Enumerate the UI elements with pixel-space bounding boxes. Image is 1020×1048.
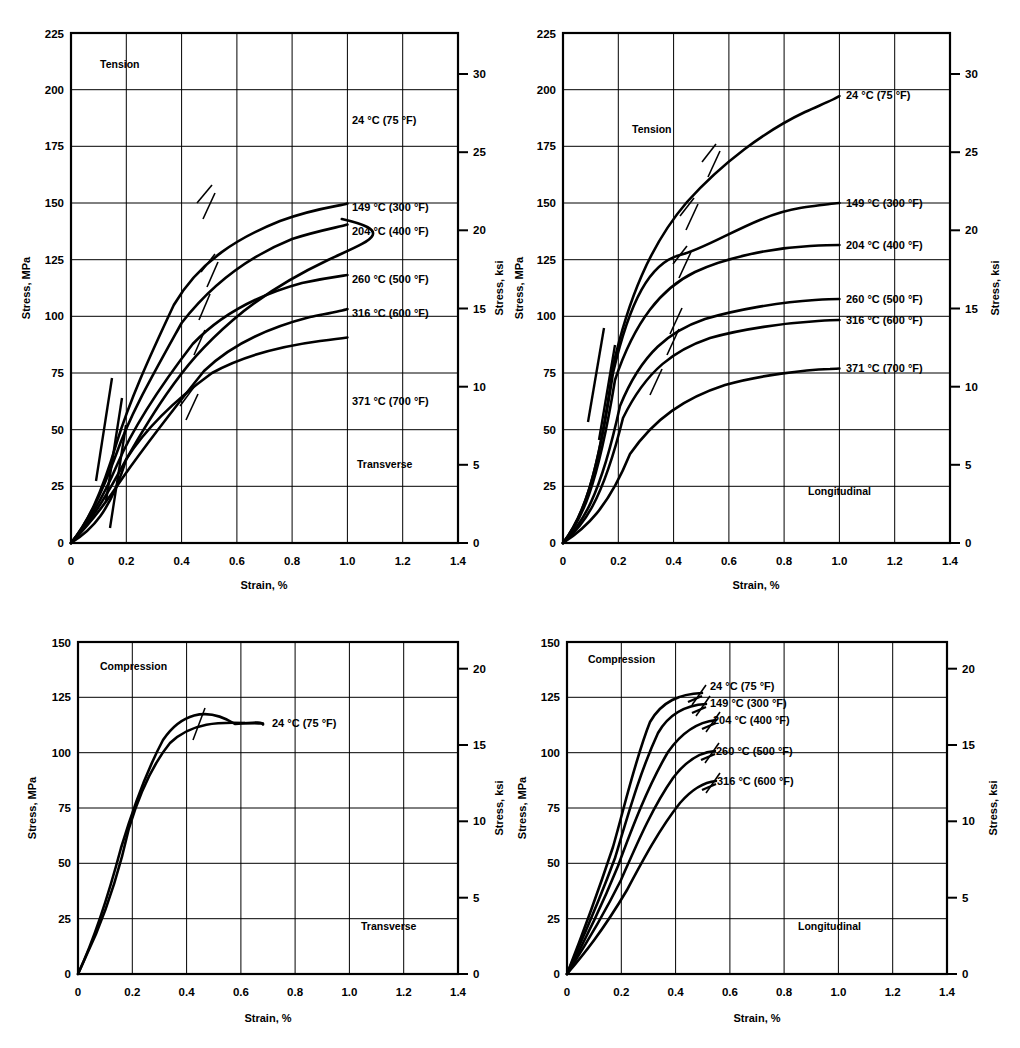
- svg-text:25: 25: [543, 480, 556, 492]
- curve-labels-bl: 24 °C (75 °F): [272, 717, 337, 729]
- mode-label-br: Compression: [588, 653, 655, 665]
- curve-label-24c: 24 °C (75 °F): [846, 89, 911, 101]
- svg-text:0.6: 0.6: [721, 555, 737, 567]
- svg-text:25: 25: [473, 146, 486, 158]
- svg-text:1.4: 1.4: [939, 986, 956, 998]
- svg-text:10: 10: [962, 815, 975, 827]
- svg-text:20: 20: [473, 224, 486, 236]
- svg-text:Strain, %: Strain, %: [732, 579, 779, 591]
- chart-compression-longitudinal: 0 25 50 75 100 125 150 Stress, MPa 0 5 1…: [510, 600, 1020, 1048]
- svg-text:0: 0: [564, 986, 570, 998]
- curve-label-149c: 149 °C (300 °F): [710, 697, 787, 709]
- svg-text:1.2: 1.2: [885, 986, 901, 998]
- svg-text:0: 0: [68, 555, 74, 567]
- svg-text:1.4: 1.4: [450, 555, 467, 567]
- svg-text:225: 225: [45, 28, 65, 40]
- svg-text:1.0: 1.0: [830, 986, 846, 998]
- svg-text:Stress, ksi: Stress, ksi: [493, 260, 505, 315]
- svg-text:20: 20: [962, 663, 975, 675]
- svg-text:30: 30: [473, 68, 486, 80]
- curve-label-371c: 371 °C (700 °F): [352, 395, 429, 407]
- svg-text:75: 75: [547, 802, 560, 814]
- svg-text:15: 15: [473, 739, 486, 751]
- svg-text:0.8: 0.8: [776, 555, 793, 567]
- orientation-label-bl: Transverse: [361, 920, 417, 932]
- svg-text:0.2: 0.2: [610, 555, 626, 567]
- svg-text:Stress, MPa: Stress, MPa: [516, 776, 528, 839]
- strain-ticks-tr: [650, 144, 720, 395]
- svg-text:150: 150: [52, 637, 71, 649]
- svg-text:5: 5: [962, 892, 969, 904]
- svg-text:15: 15: [962, 739, 975, 751]
- y-axis-right-bl: 0 5 10 15 20 Stress, ksi: [458, 663, 505, 980]
- curve-label-24c: 24 °C (75 °F): [710, 680, 775, 692]
- svg-text:100: 100: [541, 747, 560, 759]
- svg-text:0: 0: [75, 986, 81, 998]
- svg-text:1.0: 1.0: [341, 986, 357, 998]
- svg-text:0.8: 0.8: [284, 555, 301, 567]
- svg-text:125: 125: [537, 254, 557, 266]
- curve-labels-tr: 24 °C (75 °F) 149 °C (300 °F) 204 °C (40…: [846, 89, 923, 374]
- svg-text:5: 5: [473, 892, 480, 904]
- curve-label-149c: 149 °C (300 °F): [352, 201, 429, 213]
- curves-tr: [563, 96, 839, 543]
- curve-label-204c: 204 °C (400 °F): [846, 239, 923, 251]
- chart-tension-transverse: 0 25 50 75 100 125 150 175 200 225 Stres…: [0, 0, 510, 600]
- y-axis-left-bl: 0 25 50 75 100 125 150 Stress, MPa: [26, 637, 72, 980]
- curve-label-204c: 204 °C (400 °F): [352, 225, 429, 237]
- svg-text:Stress, ksi: Stress, ksi: [493, 780, 505, 835]
- svg-text:0.4: 0.4: [668, 986, 685, 998]
- svg-text:0: 0: [560, 555, 566, 567]
- svg-text:0.8: 0.8: [287, 986, 304, 998]
- svg-text:0.2: 0.2: [124, 986, 140, 998]
- svg-text:0.4: 0.4: [666, 555, 683, 567]
- curve-label-260c: 260 °C (500 °F): [352, 273, 429, 285]
- y-axis-right-br: 0 5 10 15 20 Stress, ksi: [947, 663, 999, 980]
- curves-br: [567, 693, 716, 974]
- svg-text:125: 125: [52, 691, 72, 703]
- curve-label-316c: 316 °C (600 °F): [717, 775, 794, 787]
- strain-ticks-bl: [193, 708, 205, 740]
- svg-text:50: 50: [51, 424, 64, 436]
- svg-text:175: 175: [45, 140, 65, 152]
- svg-text:150: 150: [45, 197, 64, 209]
- y-axis-left-tr: 0 25 50 75 100 125 150 175 200 225 Stres…: [513, 28, 557, 549]
- panel-compression-longitudinal: 0 25 50 75 100 125 150 Stress, MPa 0 5 1…: [510, 600, 1020, 1048]
- curve-labels-br: 24 °C (75 °F) 149 °C (300 °F) 204 °C (40…: [710, 680, 794, 787]
- panel-tension-transverse: 0 25 50 75 100 125 150 175 200 225 Stres…: [0, 0, 510, 600]
- curve-label-149c: 149 °C (300 °F): [846, 197, 923, 209]
- chart-tension-longitudinal: 0 25 50 75 100 125 150 175 200 225 Stres…: [510, 0, 1020, 600]
- svg-text:0: 0: [473, 537, 479, 549]
- svg-text:0: 0: [962, 968, 968, 980]
- svg-text:10: 10: [473, 815, 486, 827]
- svg-text:125: 125: [541, 691, 561, 703]
- svg-text:Stress, MPa: Stress, MPa: [26, 776, 38, 839]
- svg-text:Strain, %: Strain, %: [244, 1012, 291, 1024]
- svg-text:0: 0: [58, 537, 64, 549]
- y-axis-right-tl: 0 5 10 15 20 25 30 Stress, ksi: [458, 68, 505, 549]
- mode-label-tl: Tension: [100, 58, 139, 70]
- svg-text:1.2: 1.2: [396, 986, 412, 998]
- orientation-label-tr: Longitudinal: [808, 485, 871, 497]
- svg-text:5: 5: [473, 459, 480, 471]
- svg-text:0: 0: [965, 537, 971, 549]
- curve-label-204c: 204 °C (400 °F): [713, 714, 790, 726]
- svg-text:0: 0: [550, 537, 556, 549]
- curve-labels-tl: 24 °C (75 °F) 149 °C (300 °F) 204 °C (40…: [352, 114, 429, 407]
- x-axis-bl: 0 0.2 0.4 0.6 0.8 1.0 1.2 1.4 Strain, %: [75, 986, 467, 1024]
- svg-text:0.4: 0.4: [179, 986, 196, 998]
- plot-frame-tr: [563, 33, 950, 543]
- svg-text:100: 100: [52, 747, 71, 759]
- svg-text:0: 0: [65, 968, 71, 980]
- curve-label-371c: 371 °C (700 °F): [846, 362, 923, 374]
- svg-text:25: 25: [965, 146, 978, 158]
- curve-label-260c: 260 °C (500 °F): [846, 293, 923, 305]
- svg-text:75: 75: [543, 367, 556, 379]
- svg-text:30: 30: [965, 68, 978, 80]
- svg-text:10: 10: [965, 381, 978, 393]
- svg-text:0.6: 0.6: [229, 555, 245, 567]
- svg-text:225: 225: [537, 28, 557, 40]
- gridlines-tr: [563, 33, 950, 543]
- y-axis-left-tl: 0 25 50 75 100 125 150 175 200 225 Stres…: [20, 28, 65, 549]
- svg-text:0.2: 0.2: [118, 555, 134, 567]
